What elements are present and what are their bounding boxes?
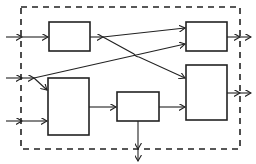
connector-a-split xyxy=(90,28,185,78)
block-b xyxy=(48,78,89,135)
block-a xyxy=(49,22,90,51)
block-c xyxy=(117,92,159,121)
block-e xyxy=(186,65,227,120)
input-2-arrow xyxy=(6,44,185,90)
connector-a-to-e xyxy=(103,37,185,78)
block-d xyxy=(186,22,227,51)
block-diagram xyxy=(0,0,256,164)
connector-a-to-d xyxy=(103,28,185,37)
connector-in2-to-b xyxy=(34,78,47,90)
